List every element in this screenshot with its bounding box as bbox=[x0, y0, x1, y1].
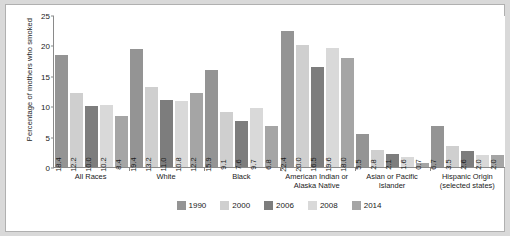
bar: 8.4 bbox=[115, 116, 128, 167]
chart-figure: Percentage of mothers who smoked 0510152… bbox=[0, 0, 510, 236]
bar-value-label: 18.0 bbox=[340, 157, 348, 172]
bar: 2.6 bbox=[461, 151, 474, 167]
bar: 2.0 bbox=[476, 155, 489, 167]
bar: 11.0 bbox=[160, 100, 173, 167]
bar: 5.5 bbox=[356, 134, 369, 167]
legend-label: 2000 bbox=[232, 201, 250, 210]
bar: 15.9 bbox=[205, 70, 218, 167]
y-axis-tick-label: 0 bbox=[46, 164, 50, 173]
bar: 13.2 bbox=[145, 87, 158, 167]
bar: 12.2 bbox=[70, 93, 83, 167]
bar-value-label: 5.5 bbox=[355, 159, 363, 169]
bar: 18.0 bbox=[341, 58, 354, 167]
bar-value-label: 7.6 bbox=[234, 159, 242, 169]
x-axis-category-label: White bbox=[128, 172, 203, 190]
bar: 3.5 bbox=[446, 146, 459, 167]
legend-item[interactable]: 2006 bbox=[264, 201, 294, 210]
bar-value-label: 9.1 bbox=[219, 159, 227, 169]
bar-value-label: 2.8 bbox=[370, 159, 378, 169]
bar-value-label: 9.7 bbox=[249, 159, 257, 169]
x-axis-category-label-line: All Races bbox=[54, 172, 127, 181]
bar-group: 5.52.82.11.60.7 bbox=[355, 16, 430, 167]
bar-group: 19.413.211.010.812.2 bbox=[129, 16, 204, 167]
y-axis-tick-label: 25 bbox=[41, 12, 50, 21]
bar: 12.2 bbox=[190, 93, 203, 167]
bar-group: 15.99.17.69.76.8 bbox=[204, 16, 279, 167]
bar: 7.6 bbox=[235, 121, 248, 167]
bar-value-label: 6.7 bbox=[430, 159, 438, 169]
bar-value-label: 6.8 bbox=[264, 159, 272, 169]
bar-value-label: 1.6 bbox=[400, 159, 408, 169]
legend-item[interactable]: 2000 bbox=[220, 201, 250, 210]
bar-value-label: 15.9 bbox=[204, 157, 212, 172]
bar: 2.1 bbox=[386, 154, 399, 167]
chart-card: Percentage of mothers who smoked 0510152… bbox=[5, 4, 505, 232]
y-axis-tick-label: 20 bbox=[41, 42, 50, 51]
plot-area: 0510152025 18.412.210.010.28.419.413.211… bbox=[53, 16, 505, 168]
bar-value-label: 13.2 bbox=[144, 157, 152, 172]
x-axis-category-labels: All RacesWhiteBlackAmerican Indian orAla… bbox=[53, 172, 505, 190]
bar-value-label: 2.1 bbox=[385, 159, 393, 169]
legend-swatch bbox=[177, 201, 186, 210]
bar: 1.6 bbox=[401, 157, 414, 167]
bar: 9.1 bbox=[220, 112, 233, 167]
bar: 19.4 bbox=[130, 49, 143, 167]
legend-label: 1990 bbox=[189, 201, 207, 210]
legend-label: 2008 bbox=[320, 201, 338, 210]
legend-item[interactable]: 1990 bbox=[177, 201, 207, 210]
legend-swatch bbox=[264, 201, 273, 210]
bar-value-label: 18.4 bbox=[54, 157, 62, 172]
bar-value-label: 19.4 bbox=[129, 157, 137, 172]
legend-swatch bbox=[308, 201, 317, 210]
x-axis-category-label: Asian or PacificIslander bbox=[354, 172, 429, 190]
bar-value-label: 16.5 bbox=[310, 157, 318, 172]
x-axis-category-label-line: Islander bbox=[355, 181, 428, 190]
x-axis-category-label: Hispanic Origin(selected states) bbox=[430, 172, 505, 190]
bar-value-label: 2.6 bbox=[460, 159, 468, 169]
bar-group: 18.412.210.010.28.4 bbox=[54, 16, 129, 167]
bar-value-label: 0.7 bbox=[415, 159, 423, 169]
x-axis-category-label-line: Hispanic Origin bbox=[431, 172, 504, 181]
bar: 16.5 bbox=[311, 67, 324, 167]
bar-value-label: 22.4 bbox=[280, 157, 288, 172]
bar: 18.4 bbox=[55, 55, 68, 167]
y-axis-tick-label: 10 bbox=[41, 103, 50, 112]
x-axis-category-label-line: (selected states) bbox=[431, 181, 504, 190]
bar: 2.0 bbox=[491, 155, 504, 167]
bar: 10.2 bbox=[100, 105, 113, 167]
y-axis-tick-label: 15 bbox=[41, 72, 50, 81]
x-axis-category-label-line: White bbox=[129, 172, 202, 181]
bar-value-label: 20.0 bbox=[295, 157, 303, 172]
bar: 0.7 bbox=[416, 163, 429, 167]
x-axis-category-label-line: Asian or Pacific bbox=[355, 172, 428, 181]
legend-item[interactable]: 2014 bbox=[352, 201, 382, 210]
bar-value-label: 10.0 bbox=[84, 157, 92, 172]
bar-value-label: 10.2 bbox=[99, 157, 107, 172]
bar: 10.8 bbox=[175, 101, 188, 167]
bar-value-label: 10.8 bbox=[174, 157, 182, 172]
bar-groups: 18.412.210.010.28.419.413.211.010.812.21… bbox=[54, 16, 505, 167]
bar: 20.0 bbox=[296, 45, 309, 167]
bar-value-label: 12.2 bbox=[69, 157, 77, 172]
bar-value-label: 2.0 bbox=[475, 159, 483, 169]
bar: 9.7 bbox=[250, 108, 263, 167]
x-axis-category-label-line: Black bbox=[205, 172, 278, 181]
legend-swatch bbox=[352, 201, 361, 210]
x-axis-category-label-line: American Indian or bbox=[280, 172, 353, 181]
legend-item[interactable]: 2008 bbox=[308, 201, 338, 210]
bar: 10.0 bbox=[85, 106, 98, 167]
legend-swatch bbox=[220, 201, 229, 210]
bar-value-label: 3.5 bbox=[445, 159, 453, 169]
bar: 6.7 bbox=[431, 126, 444, 167]
x-axis-category-label: Black bbox=[204, 172, 279, 190]
y-axis-title: Percentage of mothers who smoked bbox=[25, 5, 34, 155]
x-axis-category-label: All Races bbox=[53, 172, 128, 190]
legend-label: 2014 bbox=[364, 201, 382, 210]
bar: 19.6 bbox=[326, 48, 339, 167]
x-axis-category-label-line: Alaska Native bbox=[280, 181, 353, 190]
bar-value-label: 8.4 bbox=[114, 159, 122, 169]
bar-value-label: 11.0 bbox=[159, 157, 167, 171]
bar-group: 22.420.016.519.618.0 bbox=[280, 16, 355, 167]
chart-legend: 19902000200620082014 bbox=[53, 201, 505, 210]
bar: 2.8 bbox=[371, 150, 384, 167]
